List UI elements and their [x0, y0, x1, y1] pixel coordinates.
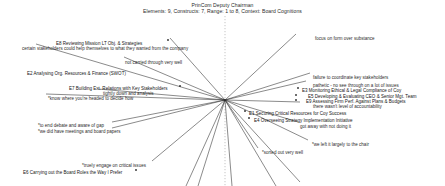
- element-label-e3: E3 Monitoring Ethical & Legal Compliance…: [302, 88, 401, 93]
- construct-pole-label: focus on form over substance: [315, 36, 375, 41]
- construct-pole-label: failure to coordinate key stakeholders: [313, 75, 388, 80]
- princom-plot-window: PrinCom Deputy Chairman Elements: 9, Con…: [0, 0, 445, 186]
- element-marker: [179, 85, 181, 87]
- element-label-e4: E4 Overseeing Strategy Implementation In…: [254, 118, 353, 123]
- construct-ray: [225, 73, 310, 100]
- element-label-e1: E1 Securing Critical Resources for Coy S…: [249, 111, 346, 116]
- element-marker: [295, 94, 297, 96]
- element-marker: [297, 87, 299, 89]
- construct-pole-label: not carried through very well: [125, 60, 182, 65]
- construct-pole-label: pathetic - no see through on a lot of is…: [313, 83, 399, 88]
- construct-ray: [225, 100, 232, 186]
- construct-ray: [225, 81, 306, 100]
- element-marker: [244, 110, 246, 112]
- construct-pole-label: *sorted out very well: [262, 150, 303, 155]
- element-marker: [248, 117, 250, 119]
- construct-ray: [225, 100, 258, 148]
- element-marker: [167, 39, 169, 41]
- construct-pole-label: *we left it largely to the chair: [312, 142, 369, 147]
- construct-pole-label: *truely engage on critical issues: [82, 163, 146, 168]
- construct-ray: [198, 100, 225, 186]
- construct-ray: [225, 34, 296, 100]
- element-marker: [135, 169, 137, 171]
- construct-ray: [186, 100, 225, 186]
- element-marker: [295, 99, 297, 101]
- construct-pole-label: *we did have meetings and board papers: [38, 129, 121, 134]
- element-label-e6: E6 Carrying out the Board Roles the Way …: [23, 170, 122, 175]
- construct-pole-label: *to end debate and aware of gap: [38, 123, 104, 128]
- construct-pole-label: got away with not doing it: [300, 124, 351, 129]
- construct-ray: [112, 100, 225, 122]
- element-label-e2: E2 Analysing Org. Resources & Finance (S…: [27, 71, 126, 76]
- construct-pole-label: certain stakeholders could help themselv…: [22, 46, 188, 51]
- construct-pole-label: there wasn't level of accountability: [313, 104, 382, 109]
- construct-pole-label: *know where you're headed to decide how: [48, 96, 133, 101]
- construct-ray: [225, 100, 300, 102]
